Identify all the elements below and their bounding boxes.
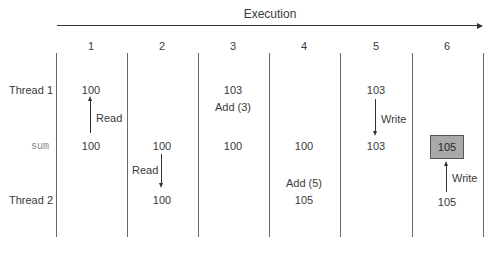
c4-sum-value: 100 — [295, 140, 313, 153]
column-divider — [412, 53, 413, 237]
column-2-label: 2 — [159, 40, 165, 53]
row-label-thread-2: Thread 2 — [9, 194, 53, 207]
c6-sum-value: 105 — [438, 141, 456, 153]
execution-axis-line — [57, 25, 477, 26]
c2-read-label: Read — [132, 164, 158, 177]
c4-thread2-value: 105 — [295, 194, 313, 207]
c3-operation: Add (3) — [215, 101, 251, 114]
c5-thread1-value: 103 — [367, 84, 385, 97]
execution-title: Execution — [244, 8, 297, 21]
column-divider — [127, 53, 128, 237]
c2-sum-value: 100 — [153, 140, 171, 153]
column-divider — [269, 53, 270, 237]
column-divider — [483, 53, 484, 237]
c3-thread1-value: 103 — [224, 84, 242, 97]
c3-sum-value: 100 — [224, 140, 242, 153]
column-4-label: 4 — [301, 40, 307, 53]
c5-write-label: Write — [381, 113, 406, 126]
column-6-label: 6 — [444, 40, 450, 53]
c6-write-label: Write — [452, 172, 477, 185]
read-arrow-up-icon — [90, 100, 91, 133]
column-divider — [56, 53, 57, 237]
execution-arrow-head-icon — [477, 23, 483, 29]
c1-sum-value: 100 — [82, 140, 100, 153]
row-label-thread-1: Thread 1 — [9, 84, 53, 97]
write-arrow-up-icon — [446, 165, 447, 192]
c5-sum-value: 103 — [367, 140, 385, 153]
read-arrow-down-icon — [161, 154, 162, 184]
c4-operation: Add (5) — [286, 177, 322, 190]
column-5-label: 5 — [373, 40, 379, 53]
write-arrow-down-icon — [375, 99, 376, 132]
c1-read-label: Read — [96, 112, 122, 125]
column-divider — [340, 53, 341, 237]
c6-sum-highlight-box: 105 — [430, 135, 464, 159]
column-1-label: 1 — [88, 40, 94, 53]
column-divider — [198, 53, 199, 237]
c2-thread2-value: 100 — [153, 194, 171, 207]
c6-thread2-value: 105 — [438, 196, 456, 209]
row-label-sum: sum — [31, 140, 49, 153]
column-3-label: 3 — [230, 40, 236, 53]
